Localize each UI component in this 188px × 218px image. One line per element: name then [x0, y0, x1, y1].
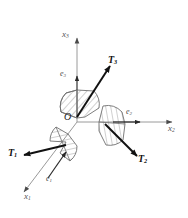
traction-label-T3: T3: [108, 55, 117, 66]
diagram-canvas: [0, 0, 188, 218]
traction-vector-diagram: x3 x2 x1 e3 e2 e1 T3 T2 T1 O: [0, 0, 188, 218]
axis-label-x1: x1: [24, 192, 31, 202]
axis-label-x3: x3: [62, 30, 69, 40]
basis-label-e1: e1: [46, 175, 52, 184]
basis-label-e2: e2: [126, 108, 132, 117]
traction-vector-T1: [24, 145, 66, 155]
axis-label-x2: x2: [168, 124, 175, 134]
basis-label-e3: e3: [60, 70, 66, 79]
origin-label: O: [64, 112, 71, 122]
traction-label-T2: T2: [138, 154, 147, 165]
traction-label-T1: T1: [8, 148, 17, 159]
